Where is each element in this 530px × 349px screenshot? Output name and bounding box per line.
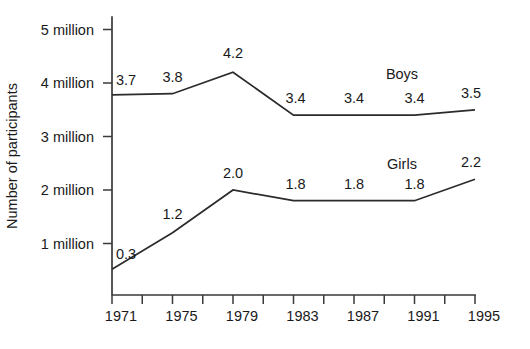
point-label-boys-1979: 4.2: [223, 45, 243, 61]
x-tick-label: 1971: [105, 308, 137, 324]
y-tick-label: 2 million: [41, 182, 94, 198]
y-axis-tick-labels: 1 million2 million3 million4 million5 mi…: [41, 22, 94, 252]
x-tick-label: 1979: [226, 308, 258, 324]
line-chart: 1 million2 million3 million4 million5 mi…: [0, 0, 530, 349]
y-tick-label: 3 million: [41, 129, 94, 145]
point-label-girls-1975: 1.2: [162, 206, 182, 222]
series-line-girls: [112, 179, 475, 269]
point-label-girls-1987: 1.8: [344, 176, 364, 192]
series-label-girls: Girls: [387, 156, 417, 172]
point-label-girls-1991: 1.8: [404, 176, 424, 192]
x-tick-label: 1975: [165, 308, 197, 324]
point-label-boys-1983: 3.4: [285, 90, 305, 106]
point-label-boys-1991: 3.4: [404, 90, 424, 106]
y-tick-label: 1 million: [41, 236, 94, 252]
x-tick-label: 1987: [347, 308, 379, 324]
point-label-boys-1987: 3.4: [344, 90, 364, 106]
point-label-boys-1971: 3.7: [116, 72, 136, 88]
x-axis-tick-labels: 1971197519791983198719911995: [105, 308, 500, 324]
point-label-girls-1979: 2.0: [223, 165, 243, 181]
point-label-girls-1983: 1.8: [285, 176, 305, 192]
point-label-girls-1995: 2.2: [461, 154, 481, 170]
point-label-girls-1971: 0.3: [116, 246, 136, 262]
x-tick-label: 1991: [407, 308, 439, 324]
series-label-boys: Boys: [386, 66, 418, 82]
x-tick-label: 1995: [468, 308, 500, 324]
y-axis-ticks: [103, 30, 112, 244]
point-label-boys-1995: 3.5: [461, 85, 481, 101]
data-point-labels: 3.73.84.23.43.43.43.50.31.22.01.81.81.82…: [116, 45, 481, 262]
y-axis-title: Number of participants: [4, 83, 20, 229]
point-label-boys-1975: 3.8: [162, 69, 182, 85]
y-tick-label: 4 million: [41, 75, 94, 91]
chart-container: 1 million2 million3 million4 million5 mi…: [0, 0, 530, 349]
y-tick-label: 5 million: [41, 22, 94, 38]
x-axis-ticks: [112, 295, 475, 304]
x-tick-label: 1983: [286, 308, 318, 324]
chart-axes: [112, 17, 475, 295]
